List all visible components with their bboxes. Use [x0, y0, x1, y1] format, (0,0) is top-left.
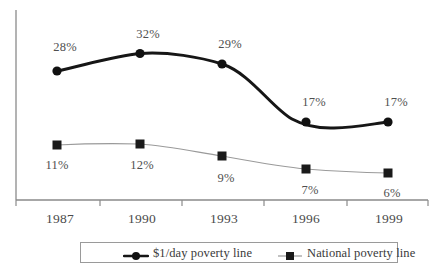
legend-item-dollar-a-day[interactable]: $1/day poverty line — [123, 243, 252, 264]
legend-item-national[interactable]: National poverty line — [277, 243, 415, 264]
x-tick-label-1993: 1993 — [194, 211, 254, 227]
data-label-dollar-1999: 17% — [366, 95, 426, 110]
data-label-national-1996: 7% — [280, 183, 340, 198]
x-tick-label-1996: 1996 — [276, 211, 336, 227]
data-label-national-1999: 6% — [362, 186, 422, 201]
legend-label-dollar-a-day: $1/day poverty line — [153, 246, 252, 261]
data-label-national-1993: 9% — [196, 171, 256, 186]
poverty-line-chart: 28% 32% 29% 17% 17% 11% 12% 9% 7% 6% 198… — [0, 0, 444, 275]
data-label-dollar-1987: 28% — [35, 40, 95, 55]
data-label-dollar-1996: 17% — [284, 95, 344, 110]
legend-label-national: National poverty line — [307, 246, 415, 261]
data-label-national-1990: 12% — [112, 158, 172, 173]
data-label-national-1987: 11% — [27, 158, 87, 173]
chart-legend: $1/day poverty line National poverty lin… — [80, 242, 398, 263]
x-tick-label-1990: 1990 — [112, 211, 172, 227]
legend-swatch-square-icon — [277, 248, 303, 260]
data-label-dollar-1990: 32% — [118, 27, 178, 42]
legend-swatch-circle-icon — [123, 248, 149, 260]
x-tick-label-1999: 1999 — [359, 211, 419, 227]
data-label-dollar-1993: 29% — [200, 37, 260, 52]
x-tick-label-1987: 1987 — [30, 211, 90, 227]
